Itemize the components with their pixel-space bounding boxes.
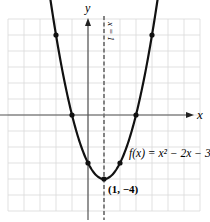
vertex-label: (1, −4) [108, 183, 138, 196]
data-point [117, 160, 122, 165]
parabola-graph: x y x = 1 f(x) = x² − 2x − 3 (1, −4) [0, 0, 210, 222]
data-point [101, 176, 106, 181]
data-point [149, 32, 154, 37]
data-point [53, 32, 58, 37]
symmetry-label: x = 1 [106, 21, 116, 41]
data-point [69, 112, 74, 117]
y-axis-label: y [84, 1, 91, 15]
function-label: f(x) = x² − 2x − 3 [129, 147, 210, 160]
data-point [133, 112, 138, 117]
x-axis-label: x [196, 107, 203, 122]
axes [0, 18, 194, 220]
data-point [85, 160, 90, 165]
